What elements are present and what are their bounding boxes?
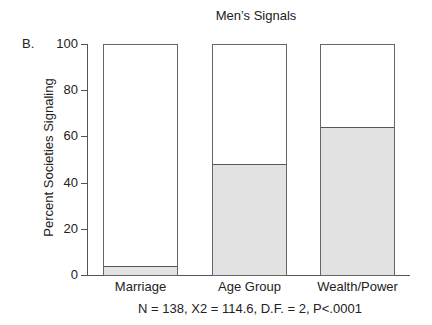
y-tick — [81, 183, 87, 184]
y-tick — [81, 229, 87, 230]
x-category-label: Marriage — [83, 279, 198, 294]
y-axis-line — [87, 44, 88, 276]
y-tick-label: 0 — [48, 267, 78, 282]
chart-title: Men’s Signals — [40, 8, 432, 23]
y-tick-label: 100 — [48, 36, 78, 51]
y-axis-label: Percent Societies Signaling — [41, 78, 56, 238]
y-tick — [81, 136, 87, 137]
y-tick — [81, 44, 87, 45]
y-tick-label: 20 — [48, 221, 78, 236]
bar-fill — [104, 266, 177, 275]
y-tick — [81, 90, 87, 91]
bar-fill — [321, 127, 394, 275]
bar-fill — [213, 164, 286, 275]
statistics-footnote: N = 138, X2 = 114.6, D.F. = 2, P<.0001 — [80, 301, 420, 316]
x-category-label: Wealth/Power — [300, 279, 415, 294]
y-tick-label: 60 — [48, 128, 78, 143]
bar-outline — [103, 44, 178, 276]
y-tick-label: 40 — [48, 175, 78, 190]
panel-label: B. — [22, 36, 34, 51]
x-category-label: Age Group — [192, 279, 307, 294]
y-tick-label: 80 — [48, 82, 78, 97]
y-tick — [81, 275, 87, 276]
